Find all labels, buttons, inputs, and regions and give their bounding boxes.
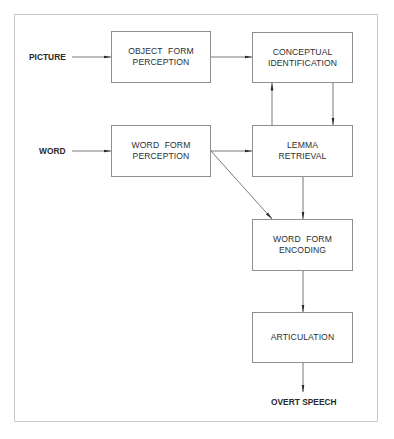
box-label: LEMMA RETRIEVAL xyxy=(278,140,326,162)
input-label-picture: PICTURE xyxy=(29,52,66,62)
box-conceptual-identification: CONCEPTUAL IDENTIFICATION xyxy=(252,32,353,83)
box-word-form-encoding: WORD FORM ENCODING xyxy=(252,219,353,271)
input-label-word: WORD xyxy=(39,146,66,156)
box-label: WORD FORM ENCODING xyxy=(273,234,332,256)
box-label: ARTICULATION xyxy=(271,332,334,343)
box-label: CONCEPTUAL IDENTIFICATION xyxy=(268,47,337,69)
box-label: OBJECT FORM PERCEPTION xyxy=(128,46,194,68)
box-label: WORD FORM PERCEPTION xyxy=(132,140,191,162)
box-object-form-perception: OBJECT FORM PERCEPTION xyxy=(111,31,211,83)
output-label-overt-speech: OVERT SPEECH xyxy=(271,397,337,407)
box-word-form-perception: WORD FORM PERCEPTION xyxy=(111,125,211,177)
box-articulation: ARTICULATION xyxy=(252,312,353,363)
box-lemma-retrieval: LEMMA RETRIEVAL xyxy=(252,125,353,177)
